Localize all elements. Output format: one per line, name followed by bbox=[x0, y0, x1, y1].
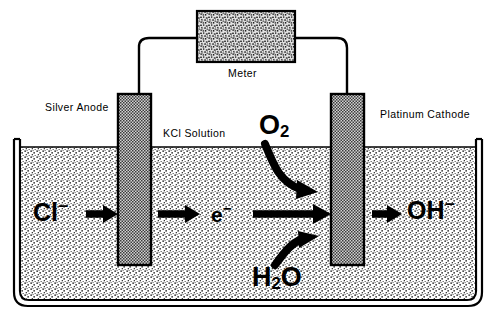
label-meter: Meter bbox=[228, 67, 257, 79]
water-subscript: 2 bbox=[272, 274, 281, 293]
chloride-charge: − bbox=[58, 196, 68, 216]
diagram-svg bbox=[0, 0, 496, 327]
label-platinum-cathode: Platinum Cathode bbox=[380, 108, 470, 120]
diagram-canvas: Silver Anode Platinum Cathode KCl Soluti… bbox=[0, 0, 496, 327]
wire-meter-to-cathode bbox=[295, 38, 347, 94]
label-chloride-ion: Cl− bbox=[33, 198, 68, 227]
silver-anode-electrode[interactable] bbox=[118, 94, 151, 265]
water-symbol-h: H bbox=[252, 262, 272, 292]
electron-charge: − bbox=[223, 200, 232, 217]
label-hydroxide-ion: OH− bbox=[407, 196, 454, 225]
label-water: H2O bbox=[252, 262, 302, 293]
label-electron: e− bbox=[211, 203, 232, 227]
label-oxygen: O2 bbox=[259, 110, 289, 141]
label-silver-anode: Silver Anode bbox=[45, 101, 109, 113]
chloride-symbol: Cl bbox=[33, 198, 58, 226]
platinum-cathode-electrode[interactable] bbox=[331, 94, 364, 265]
hydroxide-symbol: OH bbox=[407, 196, 445, 224]
hydroxide-charge: − bbox=[445, 194, 455, 214]
wire-anode-to-meter bbox=[139, 38, 197, 94]
electron-symbol: e bbox=[211, 203, 223, 226]
meter-body[interactable] bbox=[197, 11, 295, 62]
oxygen-symbol: O bbox=[259, 110, 280, 140]
water-symbol-o: O bbox=[281, 262, 302, 292]
oxygen-subscript: 2 bbox=[280, 122, 289, 141]
label-kcl-solution: KCl Solution bbox=[163, 127, 226, 139]
